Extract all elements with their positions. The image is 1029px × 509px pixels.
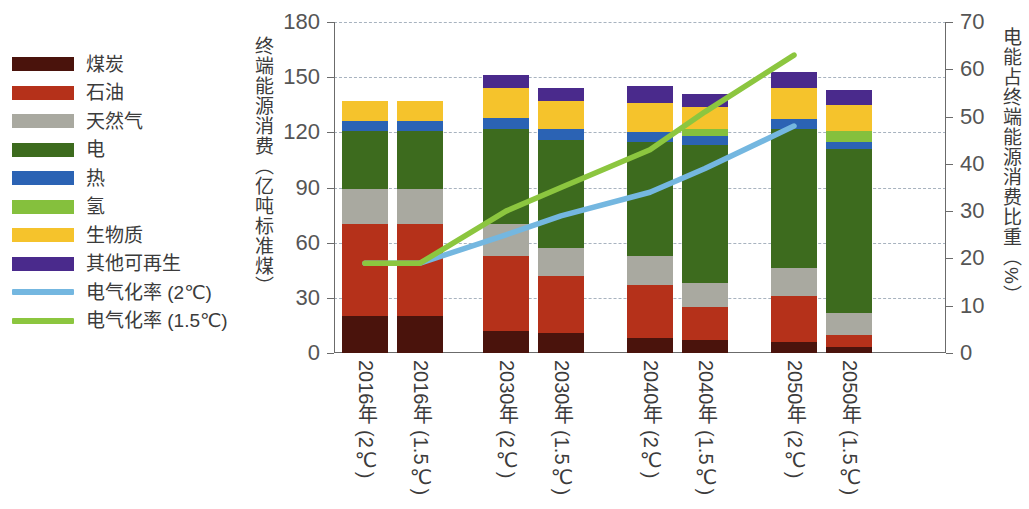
legend-item-label: 其他可再生	[86, 254, 181, 273]
line-series	[365, 126, 794, 263]
x-axis-tick-label-text: 2040年 (1.5℃)	[692, 360, 721, 495]
x-axis-tick-label-text: 2030年 (1.5℃)	[548, 360, 577, 495]
legend-color-swatch	[12, 143, 74, 157]
y-axis-left-title: 终端能源消费（亿吨标准煤）	[248, 0, 278, 331]
y-axis-left-tick	[327, 22, 334, 23]
y-axis-right-tick	[946, 211, 953, 212]
y-axis-left-tick	[327, 243, 334, 244]
y-axis-left-tick-label: 120	[0, 121, 320, 143]
y-axis-left-tick-label: 30	[0, 287, 320, 309]
y-axis-right-tick-label: 70	[960, 11, 984, 33]
y-axis-left-tick	[327, 132, 334, 133]
x-axis-tick-label: 2050年 (1.5℃)	[836, 360, 862, 499]
y-axis-left-tick-label: 180	[0, 11, 320, 33]
x-axis-ticklabels: 2016年 (2℃)2016年 (1.5℃)2030年 (2℃)2030年 (1…	[334, 360, 946, 509]
y-axis-right-tick-label: 40	[960, 153, 984, 175]
x-axis-tick-label-text: 2050年 (1.5℃)	[836, 360, 865, 495]
y-axis-left-tick	[327, 77, 334, 78]
y-axis-left-tick	[327, 188, 334, 189]
chart-root: 煤炭石油天然气电热氢生物质其他可再生电气化率 (2℃)电气化率 (1.5℃) 终…	[0, 0, 1029, 509]
legend-color-swatch	[12, 200, 74, 214]
x-axis-tick-label: 2030年 (1.5℃)	[548, 360, 574, 499]
y-axis-right-tick	[946, 306, 953, 307]
y-axis-right-tick-label: 0	[960, 342, 972, 364]
y-axis-right-title-text: 电能占终端能源消费比重（%）	[998, 27, 1025, 305]
x-axis-tick-label-text: 2016年 (2℃)	[352, 360, 381, 479]
legend-item[interactable]: 电气化率 (1.5℃)	[12, 307, 242, 336]
x-axis-tick-label: 2016年 (1.5℃)	[407, 360, 433, 499]
line-series-group	[334, 22, 946, 353]
y-axis-left-tick-label: 90	[0, 177, 320, 199]
legend-line-swatch	[12, 318, 74, 324]
legend-item-label: 电气化率 (1.5℃)	[86, 311, 228, 330]
y-axis-right-tick	[946, 69, 953, 70]
x-axis-tick-label: 2040年 (1.5℃)	[692, 360, 718, 499]
y-axis-right-tick-label: 20	[960, 247, 984, 269]
y-axis-right-tick-label: 10	[960, 295, 984, 317]
y-axis-right-tick	[946, 353, 953, 354]
x-axis-tick-label-text: 2030年 (2℃)	[493, 360, 522, 479]
x-axis-tick-label-text: 2040年 (2℃)	[637, 360, 666, 479]
legend-item[interactable]: 其他可再生	[12, 250, 242, 279]
x-axis-tick-label-text: 2050年 (2℃)	[781, 360, 810, 479]
legend-color-swatch	[12, 257, 74, 271]
y-axis-left-tick-label: 60	[0, 232, 320, 254]
y-axis-left-tick-label: 0	[0, 342, 320, 364]
y-axis-right-tick-label: 50	[960, 106, 984, 128]
y-axis-right-tick	[946, 22, 953, 23]
x-axis-tick-label: 2040年 (2℃)	[637, 360, 663, 483]
y-axis-right-tick-label: 30	[960, 200, 984, 222]
y-axis-right-title: 电能占终端能源消费比重（%）	[996, 0, 1026, 331]
y-axis-right-tick-label: 60	[960, 58, 984, 80]
y-axis-left-tick	[327, 298, 334, 299]
x-axis-tick-label: 2050年 (2℃)	[781, 360, 807, 483]
x-axis-tick-label: 2030年 (2℃)	[493, 360, 519, 483]
y-axis-left-tick-label: 150	[0, 66, 320, 88]
y-axis-left-tick	[327, 353, 334, 354]
x-axis-tick-label-text: 2016年 (1.5℃)	[407, 360, 436, 495]
plot-area	[334, 22, 946, 353]
y-axis-right-tick	[946, 117, 953, 118]
y-axis-right-tick	[946, 164, 953, 165]
legend-item-label: 氢	[86, 197, 105, 216]
y-axis-right-tick	[946, 258, 953, 259]
x-axis-tick-label: 2016年 (2℃)	[352, 360, 378, 483]
